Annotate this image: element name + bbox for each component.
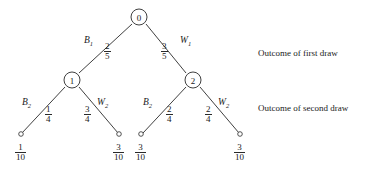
edge-label-w2-left: W2 — [97, 98, 108, 109]
leaf-marker-bb — [19, 132, 24, 137]
edge-label-b2-left: B2 — [22, 98, 31, 109]
probability-fraction-b2-left: 1 4 — [45, 105, 52, 125]
probability-fraction-w1: 3 5 — [161, 42, 168, 62]
probability-fraction-w2-left: 3 4 — [84, 105, 91, 125]
node-right-label: 2 — [191, 76, 196, 86]
tree-canvas: 0 1 2 — [0, 0, 376, 177]
edge-label-b2-right: B2 — [143, 98, 152, 109]
node-root-label: 0 — [137, 13, 142, 23]
leaf-probability-ww: 3 10 — [234, 143, 245, 163]
leaf-marker-wb — [139, 132, 144, 137]
edge-label-w1: W1 — [180, 36, 191, 47]
branch-left-to-leaf1 — [22, 87, 65, 133]
branch-right-to-leaf3 — [143, 87, 186, 133]
node-left-label: 1 — [70, 76, 75, 86]
leaf-marker-ww — [238, 132, 243, 137]
annotation-second-draw: Outcome of second draw — [258, 103, 348, 113]
leaf-probability-wb: 3 10 — [135, 143, 146, 163]
leaf-marker-bw — [117, 132, 122, 137]
annotation-first-draw: Outcome of first draw — [258, 48, 338, 58]
probability-fraction-w2-right: 2 4 — [205, 105, 212, 125]
leaf-probability-bw: 3 10 — [113, 143, 124, 163]
probability-fraction-b1: 2 5 — [104, 42, 111, 62]
edge-label-b1: B1 — [84, 36, 93, 47]
edge-label-w2-right: W2 — [218, 98, 229, 109]
leaf-probability-bb: 1 10 — [15, 143, 26, 163]
probability-fraction-b2-right: 2 4 — [166, 105, 173, 125]
probability-tree-diagram: 0 1 2 B1 W1 2 5 3 5 B2 W2 B2 W2 1 4 3 4 … — [0, 0, 376, 177]
